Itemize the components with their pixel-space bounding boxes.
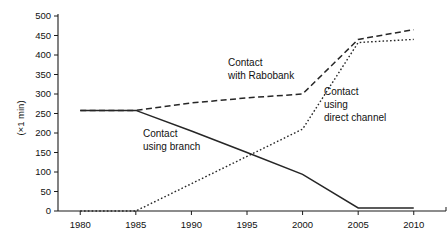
y-axis-tick-label: 0 (46, 205, 51, 216)
annotation-direct-channel-line-2: using (324, 99, 348, 110)
y-axis-tick-label: 500 (35, 10, 51, 21)
y-axis-ticks (54, 16, 58, 211)
annotation-contact-with-rabobank: Contact with Rabobank (227, 57, 295, 81)
y-axis-tick-label: 250 (35, 108, 51, 119)
x-axis: 1980198519901995200020052010 (58, 207, 446, 230)
y-axis-title: (×1 min) (15, 100, 26, 135)
x-axis-tick-label: 1990 (181, 219, 202, 230)
y-axis-tick-label: 450 (35, 30, 51, 41)
y-axis-tick-label: 100 (35, 166, 51, 177)
y-axis-tick-label: 350 (35, 69, 51, 80)
y-axis-tick-label: 50 (40, 186, 51, 197)
annotation-direct-channel-line-3: direct channel (324, 112, 386, 123)
line-chart: 050100150200250300350400450500 198019851… (0, 0, 448, 243)
y-axis-tick-label: 300 (35, 88, 51, 99)
x-axis-tick-label: 1995 (236, 219, 257, 230)
y-axis-tick-label: 200 (35, 127, 51, 138)
x-axis-tick-label: 2000 (292, 219, 313, 230)
annotation-rabobank-line-2: with Rabobank (227, 70, 295, 81)
y-axis-tick-label: 400 (35, 49, 51, 60)
y-axis-tick-labels: 050100150200250300350400450500 (35, 10, 51, 216)
chart-canvas: 050100150200250300350400450500 198019851… (0, 0, 448, 243)
annotation-rabobank-line-1: Contact (228, 57, 263, 68)
annotation-contact-using-direct-channel: Contact using direct channel (324, 86, 386, 123)
x-axis-tick-label: 2005 (348, 219, 369, 230)
x-axis-tick-labels: 1980198519901995200020052010 (70, 219, 425, 230)
x-axis-tick-label: 1980 (70, 219, 91, 230)
series-line-contact-using-branch (80, 110, 414, 208)
y-axis-tick-label: 150 (35, 147, 51, 158)
x-axis-tick-label: 2010 (403, 219, 424, 230)
y-axis: 050100150200250300350400450500 (35, 10, 58, 216)
annotation-branch-line-2: using branch (143, 141, 200, 152)
x-axis-tick-label: 1985 (125, 219, 146, 230)
annotation-direct-channel-line-1: Contact (324, 86, 359, 97)
annotation-branch-line-1: Contact (143, 128, 178, 139)
